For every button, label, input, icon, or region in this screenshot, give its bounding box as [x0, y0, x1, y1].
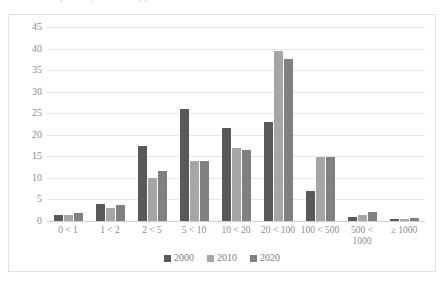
- y-axis-tick-label: 10: [32, 173, 42, 183]
- bar-2010-10-20[interactable]: [232, 148, 241, 221]
- bar-2010--1000[interactable]: [400, 219, 409, 221]
- legend-swatch-icon: [164, 255, 171, 262]
- x-axis-tick-label: 2 < 5: [131, 225, 173, 247]
- x-axis-tick-label: 0 < 1: [47, 225, 89, 247]
- x-axis-tick-label: 10 < 20: [215, 225, 257, 247]
- bar-group: [299, 27, 341, 221]
- gridline: [47, 221, 425, 222]
- bar-group: [89, 27, 131, 221]
- bar-2020-10-20[interactable]: [242, 150, 251, 221]
- bar-2000--1000[interactable]: [390, 219, 399, 221]
- bar-group: [47, 27, 89, 221]
- legend-item-2000[interactable]: 2000: [164, 253, 194, 263]
- legend-label: 2000: [174, 253, 194, 263]
- y-axis-tick-label: 30: [32, 87, 42, 97]
- bar-2010-500-1000[interactable]: [358, 215, 367, 221]
- chart-legend: 200020102020: [9, 253, 435, 263]
- clipped-caption-strip: partially visible clipped text above cha…: [0, 0, 444, 12]
- bar-2010-1-2[interactable]: [106, 208, 115, 221]
- bar-2020-1-2[interactable]: [116, 205, 125, 221]
- bar-2020-0-1[interactable]: [74, 213, 83, 221]
- bar-2000-100-500[interactable]: [306, 191, 315, 221]
- bar-2000-0-1[interactable]: [54, 215, 63, 221]
- bar-2010-100-500[interactable]: [316, 157, 325, 221]
- bar-2020-2-5[interactable]: [158, 171, 167, 221]
- bar-group: [257, 27, 299, 221]
- bar-2020-20-100[interactable]: [284, 59, 293, 221]
- bar-2020-100-500[interactable]: [326, 157, 335, 221]
- bar-2010-20-100[interactable]: [274, 51, 283, 221]
- legend-label: 2010: [217, 253, 237, 263]
- y-axis-tick-label: 0: [37, 216, 42, 226]
- bar-series-layer: [47, 27, 425, 221]
- bar-2000-10-20[interactable]: [222, 128, 231, 221]
- bar-2000-2-5[interactable]: [138, 146, 147, 221]
- y-axis-tick-label: 15: [32, 151, 42, 161]
- bar-2020-5-10[interactable]: [200, 161, 209, 221]
- x-axis-tick-label: ≥ 1000: [383, 225, 425, 247]
- y-axis-tick-label: 45: [32, 22, 42, 32]
- y-axis-tick-label: 40: [32, 44, 42, 54]
- bar-2020--1000[interactable]: [410, 218, 419, 221]
- bar-2020-500-1000[interactable]: [368, 212, 377, 221]
- x-axis-tick-label: 20 < 100: [257, 225, 299, 247]
- y-axis-tick-label: 35: [32, 65, 42, 75]
- y-axis-tick-label: 20: [32, 130, 42, 140]
- y-axis-tick-label: 25: [32, 108, 42, 118]
- bar-2010-5-10[interactable]: [190, 161, 199, 221]
- bar-group: [383, 27, 425, 221]
- bar-group: [173, 27, 215, 221]
- y-axis-tick-label: 5: [37, 194, 42, 204]
- x-axis-tick-label: 100 < 500: [299, 225, 341, 247]
- plot-area: 454035302520151050: [47, 27, 425, 221]
- legend-label: 2020: [260, 253, 280, 263]
- bar-2000-20-100[interactable]: [264, 122, 273, 221]
- legend-swatch-icon: [250, 255, 257, 262]
- x-axis-tick-label: 1 < 2: [89, 225, 131, 247]
- bar-group: [215, 27, 257, 221]
- bar-group: [131, 27, 173, 221]
- bar-2000-500-1000[interactable]: [348, 217, 357, 221]
- bar-2000-5-10[interactable]: [180, 109, 189, 221]
- bar-2000-1-2[interactable]: [96, 204, 105, 221]
- x-axis-tick-label: 5 < 10: [173, 225, 215, 247]
- x-axis-tick-label: 500 < 1000: [341, 225, 383, 247]
- chart-container: 454035302520151050 0 < 11 < 22 < 55 < 10…: [8, 14, 436, 272]
- bar-group: [341, 27, 383, 221]
- legend-swatch-icon: [207, 255, 214, 262]
- x-axis-tick-labels: 0 < 11 < 22 < 55 < 1010 < 2020 < 100100 …: [47, 225, 425, 247]
- legend-item-2010[interactable]: 2010: [207, 253, 237, 263]
- legend-item-2020[interactable]: 2020: [250, 253, 280, 263]
- bar-2010-0-1[interactable]: [64, 215, 73, 221]
- clipped-caption-text: partially visible clipped text above cha…: [60, 0, 229, 2]
- bar-2010-2-5[interactable]: [148, 178, 157, 221]
